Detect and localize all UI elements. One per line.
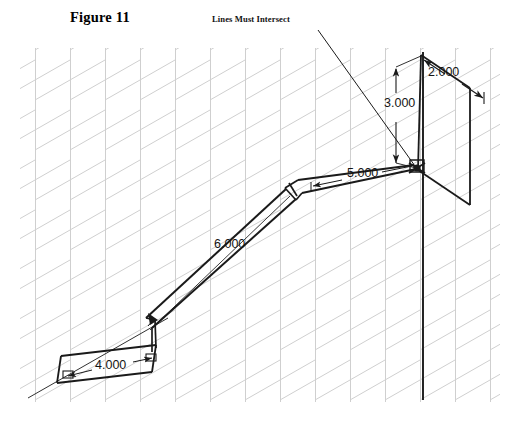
- technical-drawing: [0, 0, 510, 426]
- figure-canvas: Figure 11 Lines Must Intersect 3.000 2.0…: [0, 0, 510, 426]
- dimension-label-5000: 5.000: [347, 166, 378, 180]
- figure-title: Figure 11: [70, 9, 130, 26]
- dimension-label-4000: 4.000: [95, 358, 126, 372]
- dimension-label-3000: 3.000: [384, 96, 415, 110]
- lines-must-intersect-note: Lines Must Intersect: [212, 14, 290, 24]
- dimension-label-2000: 2.000: [428, 65, 459, 79]
- dimension-label-6000: 6.000: [214, 237, 245, 251]
